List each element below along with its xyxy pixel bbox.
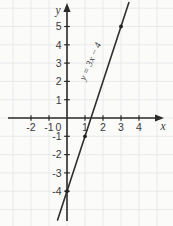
x-tick-label: -2 [26,121,35,133]
x-tick-label: 4 [136,121,142,133]
x-axis-label: x [159,120,166,132]
y-tick-label: 3 [56,57,62,69]
y-tick-label: -4 [52,185,61,197]
chart-background [0,0,173,226]
x-tick-label: 2 [100,121,106,133]
x-tick-label: 3 [118,121,124,133]
y-tick-label: 5 [56,20,62,32]
data-point [119,25,123,29]
data-point [83,134,87,138]
data-point [65,189,69,193]
y-tick-label: 4 [56,39,62,51]
y-tick-label: -2 [52,148,61,160]
coordinate-plane-chart: -2-101234-4-3-2-112345xyy = 3x − 4 [0,0,173,226]
y-tick-label: 2 [56,75,62,87]
y-tick-label: 1 [56,94,62,106]
y-tick-label: -1 [52,130,61,142]
line-graph-svg: -2-101234-4-3-2-112345xyy = 3x − 4 [0,0,173,226]
y-tick-label: -3 [52,167,61,179]
y-axis-label: y [54,4,61,17]
